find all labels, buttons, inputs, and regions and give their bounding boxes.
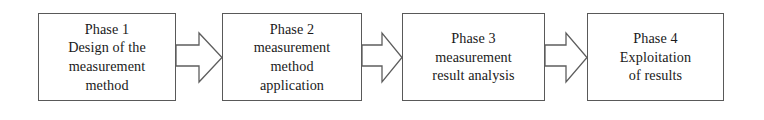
- block-arrow-right-icon-2: [362, 33, 402, 82]
- phase-1-line-4: method: [85, 76, 128, 95]
- phase-3-line-2: measurement: [435, 48, 512, 67]
- phase-4-line-2: Exploitation: [620, 48, 691, 67]
- phase-box-1: Phase 1 Design of the measurement method: [38, 13, 176, 101]
- phase-1-line-2: Design of the: [68, 38, 146, 57]
- phase-4-line-1: Phase 4: [633, 29, 677, 48]
- block-arrow-right-icon-3: [545, 33, 587, 82]
- phase-2-line-1: Phase 2: [270, 20, 314, 39]
- phase-2-line-3: method: [270, 57, 313, 76]
- phase-box-4: Phase 4 Exploitation of results: [587, 13, 724, 101]
- block-arrow-right-icon-1: [176, 33, 222, 82]
- phase-1-line-3: measurement: [69, 57, 146, 76]
- phase-1-line-1: Phase 1: [85, 20, 129, 39]
- phase-box-2: Phase 2 measurement method application: [222, 13, 362, 101]
- phase-2-line-2: measurement: [254, 38, 331, 57]
- phase-4-line-3: of results: [629, 66, 682, 85]
- process-flow-diagram: Phase 1 Design of the measurement method…: [0, 0, 764, 120]
- phase-2-line-4: application: [260, 76, 324, 95]
- phase-3-line-3: result analysis: [432, 66, 514, 85]
- phase-3-line-1: Phase 3: [451, 29, 495, 48]
- phase-box-3: Phase 3 measurement result analysis: [402, 13, 545, 101]
